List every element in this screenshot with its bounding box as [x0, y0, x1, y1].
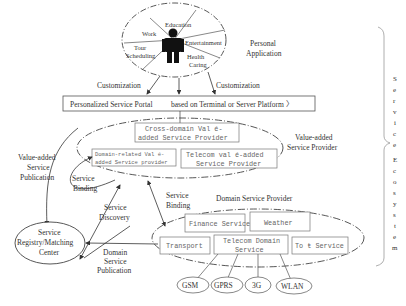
weather-label: Weather	[264, 219, 293, 227]
domain-provider-label: Domain Service Provider	[216, 194, 293, 203]
network-gsm-label: GSM	[182, 281, 199, 290]
transport-label: Transport	[166, 242, 203, 250]
svg-text:t: t	[394, 222, 396, 230]
telecom-va-1: Telecom val é-added	[186, 151, 264, 159]
discovery-2: Discovery	[99, 213, 130, 222]
sector-health-1: Health	[187, 53, 205, 60]
domain-pub-1: Domain	[103, 248, 127, 257]
telecom-domain-1: Telecom Domain	[223, 237, 280, 245]
personal-application-group: Work Education Entertainment Tour Schedu…	[122, 3, 226, 77]
personal-application-label-1: Personal	[250, 39, 276, 48]
svg-text:s: s	[393, 211, 396, 219]
sector-education: Education	[165, 21, 192, 28]
value-added-label-1: Value-added	[295, 133, 333, 142]
personal-application-label-2: Application	[246, 49, 282, 58]
domain-pub-3: Publication	[97, 266, 131, 275]
telecom-va-2: Service Provider	[196, 160, 261, 168]
network-wlan-label: WLAN	[281, 282, 304, 291]
cross-domain-1: Cross-domain Val é-	[145, 125, 223, 133]
svg-text:s: s	[393, 189, 396, 197]
finance-label: Finance Service	[189, 220, 250, 228]
cross-domain-2: added Service Provider	[138, 134, 228, 142]
svg-text:e: e	[393, 233, 396, 241]
svg-text:v: v	[393, 108, 397, 116]
svg-text:S: S	[393, 75, 397, 83]
tour-label: To ŧ Service	[295, 242, 344, 250]
svg-text:r: r	[393, 97, 396, 105]
svg-text:c: c	[393, 167, 396, 175]
service-ecosystem-diagram: Work Education Entertainment Tour Schedu…	[0, 0, 406, 306]
network-3g-label: 3G	[252, 281, 262, 290]
va-publication-1: Value-added	[18, 153, 56, 162]
domain-pub-2: Service	[104, 257, 127, 266]
svg-text:y: y	[393, 200, 397, 208]
portal-label: Personalized Service Portal	[70, 100, 152, 109]
va-publication-2: Service	[27, 163, 50, 172]
svg-text:m: m	[392, 244, 398, 252]
telecom-domain-2: Service	[235, 246, 264, 254]
sector-work: Work	[142, 30, 157, 37]
svg-text:c: c	[393, 130, 396, 138]
svg-text:o: o	[393, 178, 397, 186]
customization-right: Customization	[216, 81, 260, 90]
registry-2: Registry/Matching	[17, 238, 73, 247]
network-gprs-label: GPRS	[214, 281, 233, 290]
sector-health-2: Caring	[189, 61, 207, 68]
ecosystem-brace	[376, 27, 390, 266]
binding2-2: Binding	[166, 201, 190, 210]
customization-left: Customization	[97, 81, 141, 90]
domain-related-1: Domain-related Val é-	[95, 151, 164, 158]
svg-text:E: E	[393, 156, 397, 164]
binding2-1: Service	[166, 191, 189, 200]
sector-entertainment: Entertainment	[185, 39, 222, 46]
svg-text:i: i	[394, 119, 396, 127]
registry-3: Center	[39, 248, 59, 257]
person-icon	[162, 29, 184, 64]
binding-1: Service	[72, 174, 95, 183]
portal-suffix: based on Terminal or Server Platform 〉	[171, 100, 293, 109]
svg-text:e: e	[393, 141, 396, 149]
sector-tour-2: Scheduling	[126, 52, 156, 59]
registry-1: Service	[38, 228, 61, 237]
domain-related-2: added Service provider	[95, 159, 168, 166]
svg-text:e: e	[393, 86, 396, 94]
ecosystem-label: S e r v i c e E c o s y s t e m	[392, 75, 398, 252]
value-added-label-2: Service Provider	[287, 143, 338, 152]
sector-tour-1: Tour	[134, 44, 147, 51]
